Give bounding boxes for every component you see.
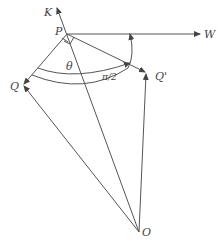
label-W: W [204, 28, 217, 41]
line-P-Q [24, 34, 67, 84]
vector-diagram: K P W Q Q' O θ π/2 [0, 0, 219, 248]
label-P: P [54, 25, 63, 38]
line-O-Q [24, 86, 139, 232]
label-pi-over-2: π/2 [101, 72, 117, 82]
label-Q: Q [10, 80, 19, 93]
label-O: O [142, 226, 151, 239]
label-Q-prime: Q' [155, 70, 167, 83]
line-O-K [57, 8, 139, 232]
line-O-Qprime [139, 74, 146, 232]
label-K: K [43, 6, 53, 19]
label-theta: θ [66, 60, 73, 73]
